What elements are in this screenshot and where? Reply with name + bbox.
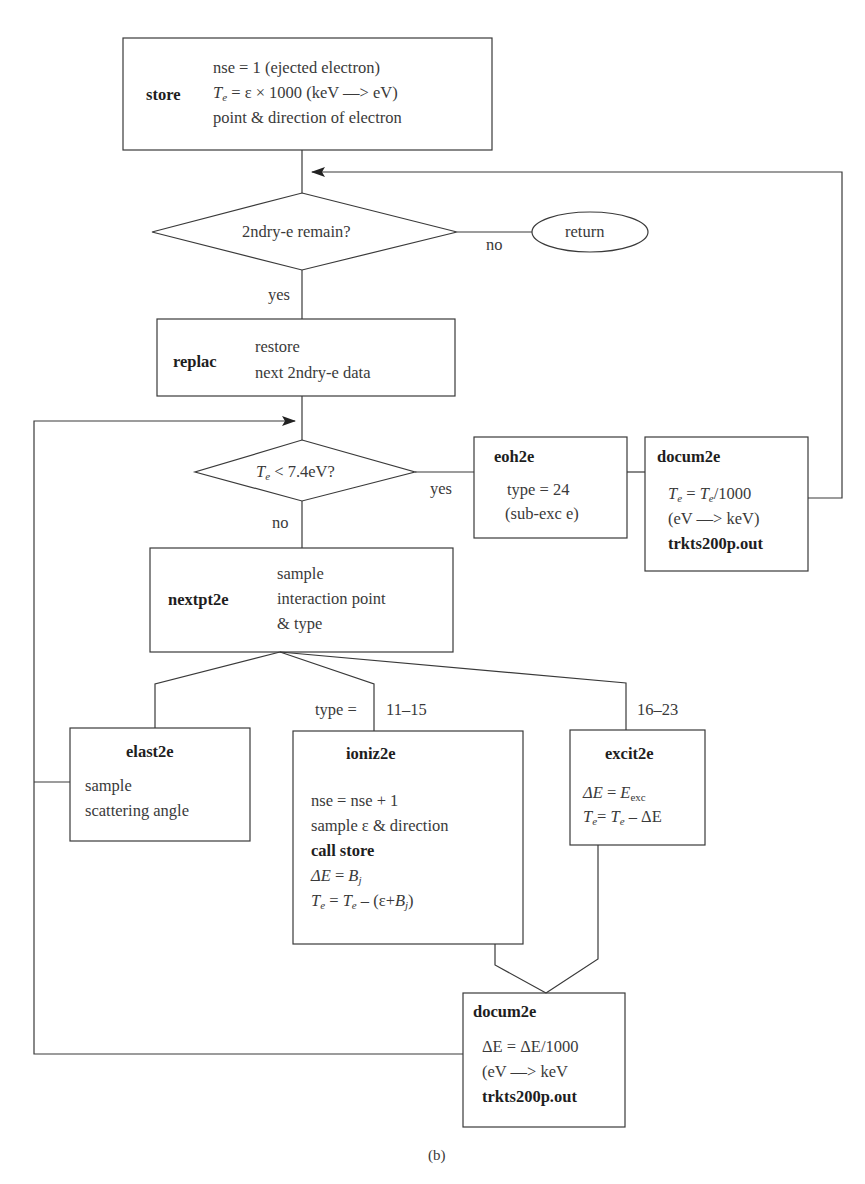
excit2e-line-1: ΔE = Eexc (583, 782, 646, 803)
docum2e-top-line-1: Te = Te/1000 (668, 483, 751, 504)
docum2e-top-line-2: (eV —> keV) (668, 508, 759, 529)
branch-type-label: type = (315, 700, 357, 720)
store-line-3: point & direction of electron (213, 107, 402, 128)
ioniz2e-line-1: nse = nse + 1 (311, 790, 398, 811)
docum2e-top-file: trkts200p.out (668, 533, 763, 554)
ioniz2e-line-3: call store (311, 840, 374, 861)
nextpt2e-title: nextpt2e (168, 589, 229, 610)
elast2e-title: elast2e (126, 741, 174, 762)
eoh2e-title: eoh2e (494, 446, 534, 467)
ioniz2e-line-4: ΔE = Bj (311, 865, 361, 886)
yes-label-remain: yes (268, 285, 290, 305)
store-line-2: Te = ε × 1000 (keV —> eV) (213, 82, 398, 103)
nextpt2e-line-2: interaction point (277, 588, 386, 609)
figure-caption: (b) (428, 1147, 446, 1164)
replac-line-1: restore (255, 336, 300, 357)
replac-title: replac (173, 351, 217, 372)
docum2e-bottom-line-2: (eV —> keV (482, 1061, 568, 1082)
flowchart-connectors (0, 0, 865, 1184)
elast2e-line-1: sample (85, 775, 132, 796)
docum2e-top-title: docum2e (657, 446, 720, 467)
decision-energy-text: Te < 7.4eV? (256, 461, 335, 482)
ioniz2e-box (293, 731, 523, 944)
no-label-remain: no (486, 235, 503, 255)
excit2e-line-2: Te= Te – ΔE (583, 806, 662, 827)
ioniz2e-title: ioniz2e (346, 743, 396, 764)
replac-line-2: next 2ndry-e data (255, 362, 370, 383)
no-label-energy: no (272, 513, 289, 533)
ioniz2e-line-5: Te = Te – (ε+Bj) (311, 890, 414, 911)
docum2e-bottom-line-1: ΔE = ΔE/1000 (482, 1036, 579, 1057)
store-line-1: nse = 1 (ejected electron) (213, 57, 380, 78)
yes-label-energy: yes (430, 479, 452, 499)
excit2e-title: excit2e (605, 743, 654, 764)
docum2e-bottom-title: docum2e (473, 1001, 536, 1022)
eoh2e-line-1: type = 24 (507, 479, 569, 500)
return-text: return (565, 221, 604, 242)
branch-ioniz-range: 11–15 (386, 700, 427, 720)
docum2e-bottom-file: trkts200p.out (482, 1086, 577, 1107)
nextpt2e-line-1: sample (277, 563, 324, 584)
ioniz2e-line-2: sample ε & direction (311, 815, 449, 836)
branch-excit-range: 16–23 (637, 700, 678, 720)
decision-remain-text: 2ndry-e remain? (242, 221, 351, 242)
elast2e-line-2: scattering angle (85, 800, 189, 821)
eoh2e-line-2: (sub-exc e) (505, 503, 579, 524)
store-title: store (146, 84, 181, 105)
nextpt2e-line-3: & type (277, 613, 322, 634)
